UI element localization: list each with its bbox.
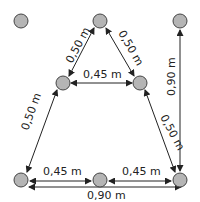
node-top-middle xyxy=(93,14,107,28)
label-bottom-total: 0,90 m xyxy=(87,189,126,202)
node-bottom-left xyxy=(14,173,28,187)
node-middle-right xyxy=(133,76,147,90)
label-top-midright: 0,50 m xyxy=(115,28,146,68)
label-bottom-right: 0,45 m xyxy=(122,165,161,178)
label-midright-bottomright: 0,50 m xyxy=(157,112,187,152)
node-bottom-right xyxy=(173,173,187,187)
label-right-vertical: 0,90 m xyxy=(165,57,178,96)
label-bottom-left: 0,45 m xyxy=(43,165,82,178)
node-isolated-top-left xyxy=(14,14,28,28)
node-bottom-middle xyxy=(93,173,107,187)
node-top-right xyxy=(173,14,187,28)
dimension-diagram: 0,50 m 0,50 m 0,45 m 0,90 m 0,50 m 0,50 … xyxy=(0,0,200,202)
node-middle-left xyxy=(56,76,70,90)
label-mid-horizontal: 0,45 m xyxy=(83,68,122,81)
label-midleft-bottomleft: 0,50 m xyxy=(19,91,44,132)
